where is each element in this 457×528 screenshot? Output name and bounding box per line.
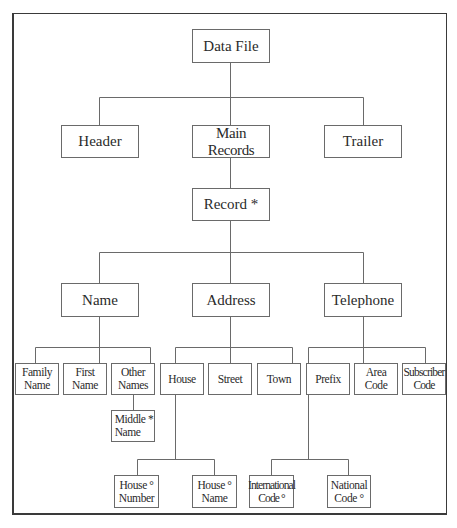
node-label-line1: House ° [119,479,154,492]
node-house: House [160,363,204,395]
node-header: Header [61,125,139,158]
node-label-line1: House ° [197,479,231,492]
node-label-line1: International [248,479,295,492]
node-label-line2: Number [119,492,154,505]
node-label-line1: National [331,479,367,492]
node-prefix: Prefix [306,363,350,395]
node-main-records: Main Records [192,125,270,158]
node-label: Main Records [193,125,269,159]
node-name: Name [61,283,139,317]
node-label: House [168,373,195,386]
node-subscriber-code: SubscriberCode [402,363,446,395]
node-label: Address [206,292,255,309]
node-label: Town [267,373,291,386]
node-record: Record * [192,188,270,221]
node-national-code: NationalCode ° [327,475,371,508]
node-house-number: House °Number [114,475,159,508]
node-trailer: Trailer [324,125,402,158]
node-label-line2: Code [403,379,444,392]
node-label-line2: Code ° [331,492,367,505]
node-other-names: OtherNames [111,363,155,395]
node-label-line2: Names [118,379,148,392]
node-label-line2: Code [365,379,388,392]
connector-lines [0,0,457,528]
node-town: Town [257,363,301,395]
node-label-line1: Subscriber [403,366,444,379]
node-house-name: House °Name [192,475,237,508]
node-label-line2: Name [197,492,231,505]
node-area-code: AreaCode [354,363,398,395]
node-label: Trailer [343,133,383,150]
node-middle-name: Middle *Name [111,410,155,442]
node-street: Street [208,363,252,395]
node-label: Record * [204,196,259,213]
node-label: Name [82,292,118,309]
node-label: Street [218,373,242,386]
node-label-line2: Name [115,426,154,439]
node-label-line1: First [72,366,98,379]
node-telephone: Telephone [324,283,402,317]
node-label-line1: Middle * [115,413,154,426]
node-international-code: InternationalCode ° [249,475,294,508]
node-data-file: Data File [192,29,270,63]
node-label-line2: Name [22,379,52,392]
node-label: Telephone [332,292,394,309]
node-first-name: FirstName [63,363,107,395]
node-label: Data File [203,38,258,55]
node-label-line1: Other [118,366,148,379]
node-label: Header [78,133,121,150]
node-label: Prefix [315,373,341,386]
node-label-line2: Code ° [248,492,295,505]
node-label-line2: Name [72,379,98,392]
node-address: Address [192,283,270,317]
node-label-line1: Family [22,366,52,379]
node-label-line1: Area [365,366,388,379]
node-family-name: FamilyName [15,363,59,395]
